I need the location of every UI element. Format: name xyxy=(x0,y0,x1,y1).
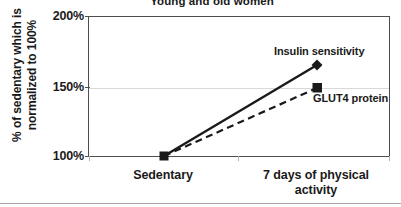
x-axis-tick-label-physical-activity-line-1: 7 days of physical xyxy=(240,168,392,183)
x-axis-tick-label-physical-activity: 7 days of physical activity xyxy=(240,168,392,198)
x-axis-tick-label-sedentary: Sedentary xyxy=(103,168,223,183)
data-point-marker-sedentary xyxy=(160,152,169,161)
series-plot xyxy=(89,17,391,158)
plot-area xyxy=(88,16,390,157)
data-point-marker-insulin-sensitivity xyxy=(312,60,323,71)
x-axis-tick-label-sedentary-line-1: Sedentary xyxy=(103,168,223,183)
bottom-divider xyxy=(0,203,401,204)
series-line-glut4-protein xyxy=(164,88,317,156)
chart-figure: Young and old women % of sedentary which… xyxy=(0,0,401,207)
series-line-insulin-sensitivity xyxy=(164,65,317,156)
chart-title: Young and old women xyxy=(112,0,312,7)
series-label-glut4-protein: GLUT4 protein xyxy=(313,92,388,104)
y-axis-tick-labels: 200% 150% 100% xyxy=(34,0,84,207)
y-axis-tick-label-100: 100% xyxy=(36,149,84,163)
series-label-insulin-sensitivity: Insulin sensitivity xyxy=(274,45,364,57)
x-axis-tick-label-physical-activity-line-2: activity xyxy=(240,183,392,198)
y-axis-tick-label-200: 200% xyxy=(36,9,84,23)
y-axis-title-line-1: % of sedentary which is xyxy=(10,0,25,160)
y-axis-tick-label-150: 150% xyxy=(36,80,84,94)
